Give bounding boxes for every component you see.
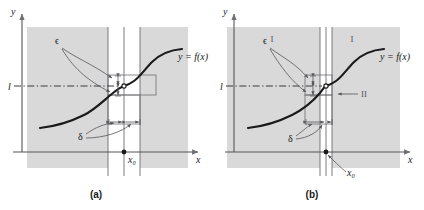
epsilon-delta-figure: y x l y = f(x) x₀ ϵ δ [0,0,424,210]
shaded-region-left-a [27,27,108,168]
curve-label-b: y = f(x) [379,51,411,63]
limit-label-b: l [220,81,223,92]
epsilon-label-b: ϵ [263,35,267,46]
y-axis-label-a: y [10,6,16,17]
panel-caption-b: (b) [306,189,319,200]
region-label-two-b: II [361,89,367,99]
epsilon-label-a: ϵ [55,35,59,46]
curve-label-a: y = f(x) [177,51,209,63]
delta-label-a: δ [78,131,83,142]
x-axis-label-b: x [407,154,413,165]
x0-point-a [122,150,127,155]
limit-label-a: l [8,81,11,92]
x0-point-b [324,150,329,155]
x-axis-label-a: x [195,154,201,165]
y-axis-label-b: y [222,6,228,17]
x0-label-b: x₀ [346,167,355,178]
figure-container: y x l y = f(x) x₀ ϵ δ [0,0,424,210]
region-label-one-right-b: I [351,34,354,44]
x0-label-a: x₀ [127,154,136,165]
delta-label-b: δ [288,133,293,144]
curve-point-a [122,84,126,88]
panel-caption-a: (a) [90,189,102,200]
shaded-region-left-b [227,27,320,168]
region-label-one-left-b: I [271,34,274,44]
curve-point-b [324,84,328,88]
